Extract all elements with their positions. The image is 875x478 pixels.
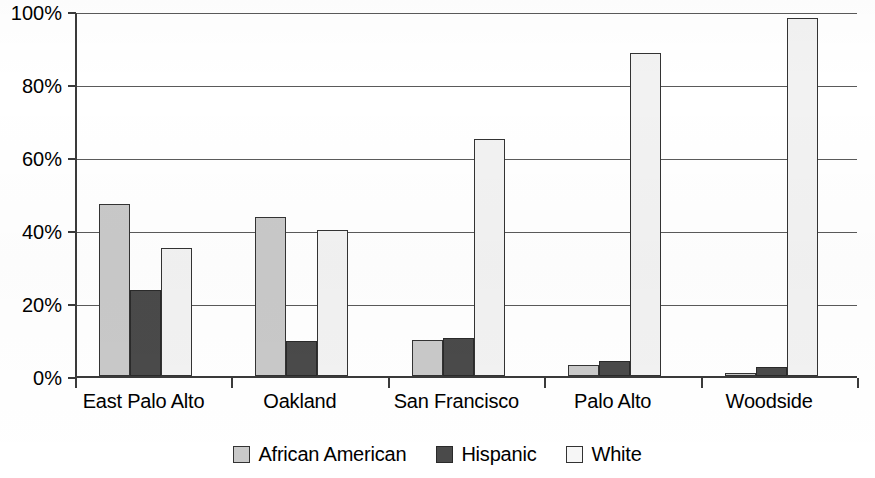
bar [412, 340, 443, 377]
legend-item: Hispanic [436, 444, 536, 464]
bars-layer [77, 13, 857, 376]
legend-label: African American [258, 444, 406, 464]
y-axis-tick-label: 60% [22, 148, 62, 171]
bar [787, 18, 818, 376]
legend-item: White [566, 444, 641, 464]
y-axis-tick-label: 0% [33, 367, 62, 390]
bar [130, 290, 161, 376]
bar [568, 365, 599, 376]
legend-swatch-white [566, 446, 583, 463]
x-axis-category-label: Woodside [726, 390, 813, 413]
bar [317, 230, 348, 376]
grouped-bar-chart: 0%20%40%60%80%100% East Palo AltoOakland… [0, 0, 875, 478]
plot-area [75, 13, 857, 378]
x-axis-tick-mark [857, 378, 859, 388]
x-axis-category-label: East Palo Alto [83, 390, 205, 413]
legend-swatch-hispanic [436, 446, 453, 463]
bar [161, 248, 192, 376]
x-axis-category-label: San Francisco [394, 390, 519, 413]
y-axis-tick-label: 100% [11, 2, 62, 25]
legend-label: Hispanic [461, 444, 536, 464]
x-axis-category-label: Palo Alto [574, 390, 651, 413]
x-axis-tick-mark [388, 378, 390, 388]
bar [630, 53, 661, 376]
x-axis-tick-mark [75, 378, 77, 388]
x-axis-tick-mark [231, 378, 233, 388]
chart-legend: African AmericanHispanicWhite [0, 444, 875, 464]
x-axis-category-label: Oakland [263, 390, 336, 413]
bar [474, 139, 505, 376]
x-axis-tick-mark [544, 378, 546, 388]
x-axis-tick-mark [701, 378, 703, 388]
bar [725, 373, 756, 376]
bar [599, 361, 630, 376]
y-axis-tick-label: 20% [22, 294, 62, 317]
bar [756, 367, 787, 376]
bar [255, 217, 286, 376]
bar [286, 341, 317, 376]
bar [99, 204, 130, 376]
legend-label: White [591, 444, 641, 464]
y-axis-tick-label: 40% [22, 221, 62, 244]
y-axis-tick-label: 80% [22, 75, 62, 98]
legend-swatch-african-american [233, 446, 250, 463]
bar [443, 338, 474, 376]
legend-item: African American [233, 444, 406, 464]
